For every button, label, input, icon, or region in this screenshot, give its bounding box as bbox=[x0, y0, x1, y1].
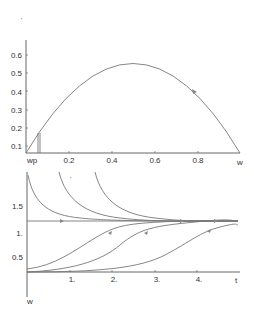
bottom-chart: 1.5 1. 0.5 1. 2. 3. 4. t w ' bbox=[12, 172, 240, 306]
flow-arrow-icon bbox=[144, 231, 148, 235]
x-tick-label: 0.2 bbox=[63, 156, 75, 165]
wp-label: wp bbox=[26, 156, 38, 165]
y-tick-label: 0.4 bbox=[11, 88, 23, 97]
growth-curve-1 bbox=[27, 221, 238, 269]
y-tick-label: 0.5 bbox=[12, 253, 24, 262]
x-tick-label: 4. bbox=[196, 275, 203, 284]
x-tick-label: 3. bbox=[154, 275, 161, 284]
decay-curve-2 bbox=[59, 172, 238, 221]
y-tick-label: 1. bbox=[16, 229, 23, 238]
flow-arrow-icon bbox=[192, 89, 197, 94]
growth-curve-3 bbox=[27, 224, 238, 272]
top-chart: ' 0.1 0.2 0.3 0.4 0.5 0.6 wp 0.2 0.4 0.6… bbox=[11, 17, 243, 167]
flow-arrow-icon bbox=[108, 231, 112, 235]
x-tick-label: 0.8 bbox=[192, 156, 204, 165]
t-axis-label: t bbox=[235, 276, 238, 285]
flow-arrow-icon bbox=[214, 219, 218, 223]
flow-arrow-icon bbox=[207, 229, 211, 233]
x-tick-label: 2. bbox=[111, 275, 118, 284]
y-tick-label: 0.3 bbox=[11, 106, 23, 115]
x-tick-label: 1. bbox=[69, 275, 76, 284]
y-tick-label: 0.5 bbox=[11, 69, 23, 78]
top-curve bbox=[26, 64, 240, 154]
w-axis-label: w bbox=[26, 297, 33, 306]
corner-mark: ' bbox=[21, 17, 22, 23]
y-tick-label: 1.5 bbox=[12, 202, 24, 211]
chart-canvas: ' 0.1 0.2 0.3 0.4 0.5 0.6 wp 0.2 0.4 0.6… bbox=[0, 0, 254, 323]
x-tick-label: 0.6 bbox=[149, 156, 161, 165]
small-mark: ' bbox=[70, 176, 71, 182]
flow-arrow-icon bbox=[180, 219, 184, 223]
y-tick-label: 0.6 bbox=[11, 51, 23, 60]
decay-curve-1 bbox=[28, 175, 238, 221]
flow-arrow-icon bbox=[60, 219, 64, 223]
decay-curve-3 bbox=[95, 172, 238, 221]
x-tick-label: 0.4 bbox=[106, 156, 118, 165]
x-axis-label: w bbox=[236, 158, 243, 167]
growth-curve-2 bbox=[27, 220, 238, 272]
y-tick-label: 0.1 bbox=[11, 142, 23, 151]
y-tick-label: 0.2 bbox=[11, 124, 23, 133]
